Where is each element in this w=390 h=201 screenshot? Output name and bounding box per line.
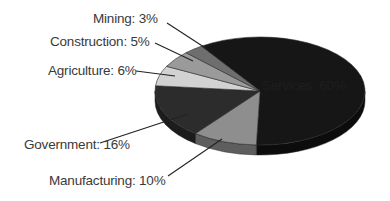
label-agriculture: Agriculture: 6% (48, 63, 137, 78)
label-services: Services: 60% (262, 78, 346, 93)
pie-chart (0, 0, 390, 201)
label-mining: Mining: 3% (93, 11, 158, 26)
leader-line-manufacturing (168, 139, 222, 176)
label-government: Government: 16% (24, 137, 130, 152)
label-construction: Construction: 5% (50, 34, 150, 49)
label-manufacturing: Manufacturing: 10% (49, 173, 165, 188)
leader-line-mining (167, 23, 207, 49)
